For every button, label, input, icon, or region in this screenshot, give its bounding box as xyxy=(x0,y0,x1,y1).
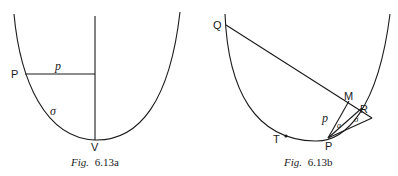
caption-a: Fig. 6.13a xyxy=(70,156,119,168)
figure-6-13a: P p σ V Fig. 6.13a xyxy=(11,12,180,168)
label-small-a: a xyxy=(337,121,341,130)
caption-b: Fig. 6.13b xyxy=(283,156,333,168)
label-sigma: σ xyxy=(354,114,359,124)
label-p: p xyxy=(54,59,61,73)
label-V: V xyxy=(91,141,99,153)
label-M: M xyxy=(344,90,353,102)
figure-6-13b: Q M R P T p σ a Fig. 6.13b xyxy=(213,14,390,168)
label-R: R xyxy=(360,103,368,115)
label-Q: Q xyxy=(213,19,222,31)
line-P-apex xyxy=(328,118,372,138)
label-sigma: σ xyxy=(50,104,57,118)
point-T xyxy=(284,134,287,137)
label-p: p xyxy=(321,111,328,125)
label-T: T xyxy=(273,133,280,145)
label-P: P xyxy=(11,68,18,80)
parabola-curve xyxy=(14,12,180,140)
line-PM xyxy=(328,101,349,138)
diagram-canvas: P p σ V Fig. 6.13a Q M R P T p σ a Fig. … xyxy=(0,0,398,176)
label-P: P xyxy=(325,140,332,152)
